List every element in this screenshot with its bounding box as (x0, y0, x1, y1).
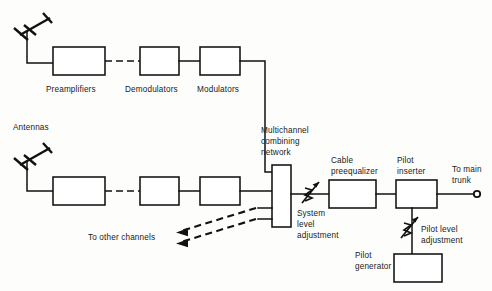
label-multichannel-line1: Multichannel (261, 126, 309, 135)
label-multichannel-line3: network (261, 148, 291, 157)
preamplifier-bottom-box (53, 177, 105, 205)
label-pilot-inserter-line2: inserter (397, 167, 426, 176)
label-pilot-inserter-line1: Pilot (397, 156, 414, 165)
modulator-bottom-box (200, 177, 240, 205)
headend-block-diagram: Preamplifiers Demodulators Modulators An… (0, 0, 492, 291)
label-pilot-level-line2: adjustment (421, 236, 463, 245)
preamplifier-top-box (53, 47, 105, 75)
label-antennas: Antennas (13, 123, 49, 132)
label-to-main-trunk-line2: trunk (452, 176, 472, 185)
label-cable-preequalizer-line2: preequalizer (331, 167, 378, 176)
label-pilot-generator-line2: generator (355, 262, 392, 271)
system-level-adjustment-icon (302, 182, 319, 203)
label-cable-preequalizer-line1: Cable (331, 156, 353, 165)
to-other-channels-branches (176, 208, 256, 247)
antenna-top-icon (14, 13, 53, 63)
label-multichannel-line2: combining (261, 137, 300, 146)
antenna-bottom-icon (14, 143, 53, 191)
pilot-inserter-box (396, 180, 437, 208)
label-modulators-top: Modulators (197, 85, 239, 94)
pilot-generator-box (394, 254, 442, 282)
label-to-main-trunk-line1: To main (452, 165, 482, 174)
label-pilot-generator-line1: Pilot (355, 251, 372, 260)
label-pilot-level-line1: Pilot level (421, 225, 458, 234)
demodulator-top-box (140, 47, 179, 75)
label-system-level-line3: adjustment (297, 231, 339, 240)
cable-preequalizer-box (329, 180, 376, 208)
pilot-level-adjustment-icon (401, 217, 418, 238)
label-preamplifiers-top: Preamplifiers (46, 85, 96, 94)
modulator-top-box (200, 47, 240, 75)
main-trunk-terminal-icon (474, 191, 480, 197)
demodulator-bottom-box (140, 177, 179, 205)
multichannel-combining-network-box (272, 165, 291, 227)
label-demodulators-top: Demodulators (125, 85, 178, 94)
label-to-other-channels: To other channels (88, 233, 155, 242)
label-system-level-line2: level (297, 220, 315, 229)
label-system-level-line1: System (297, 209, 325, 218)
diagram-canvas: Preamplifiers Demodulators Modulators An… (0, 0, 492, 291)
